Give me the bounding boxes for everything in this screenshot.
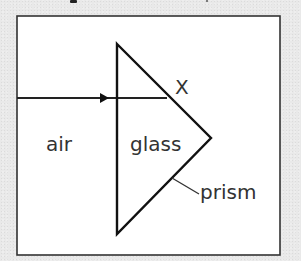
label-air: air (46, 132, 73, 156)
label-point-x: X (175, 75, 189, 99)
label-glass: glass (130, 132, 181, 156)
label-prism: prism (200, 180, 256, 204)
prism-refraction-diagram: X air glass prism (0, 0, 301, 261)
